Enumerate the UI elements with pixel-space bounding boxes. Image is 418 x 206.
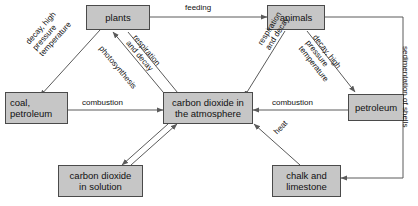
edge-atmosphere-solution: [122, 124, 168, 165]
edge-solution-atmosphere: [131, 124, 177, 165]
edge-label-petroleum-combustion: combustion: [272, 98, 313, 107]
edge-label-feeding: feeding: [185, 3, 211, 12]
node-coal-petroleum[interactable]: coal, petroleum: [5, 92, 68, 124]
node-petroleum[interactable]: petroleum: [348, 94, 404, 121]
node-plants[interactable]: plants: [86, 5, 150, 30]
edge-label-coal-combustion: combustion: [82, 98, 123, 107]
node-chalk-limestone[interactable]: chalk and limestone: [272, 165, 341, 197]
edge-label-sedimentation-of-shells: sedimentation of shells: [401, 46, 410, 127]
node-carbon-dioxide-atmosphere[interactable]: carbon dioxide in the atmosphere: [163, 92, 253, 124]
node-carbon-dioxide-solution[interactable]: carbon dioxide in solution: [58, 165, 143, 197]
carbon-cycle-diagram: plants animals coal, petroleum carbon di…: [0, 0, 418, 206]
